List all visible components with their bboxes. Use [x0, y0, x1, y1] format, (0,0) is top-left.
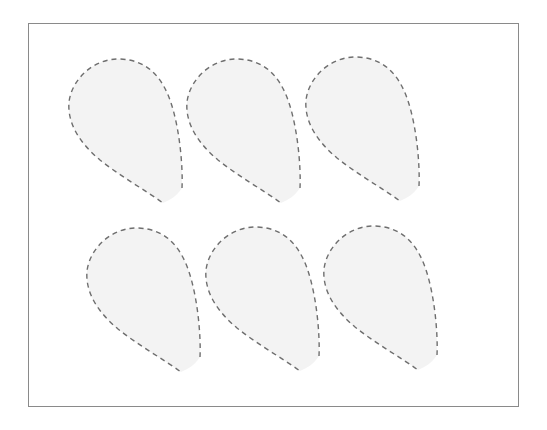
petal-shape-4 — [87, 228, 200, 372]
petal-shape-1 — [69, 59, 182, 203]
petal-shapes-layer — [0, 0, 547, 430]
petal-shape-3 — [306, 57, 419, 201]
petal-shape-5 — [206, 227, 319, 371]
petal-shape-2 — [187, 59, 300, 203]
diagram-canvas — [0, 0, 547, 430]
petal-shape-6 — [324, 226, 437, 370]
